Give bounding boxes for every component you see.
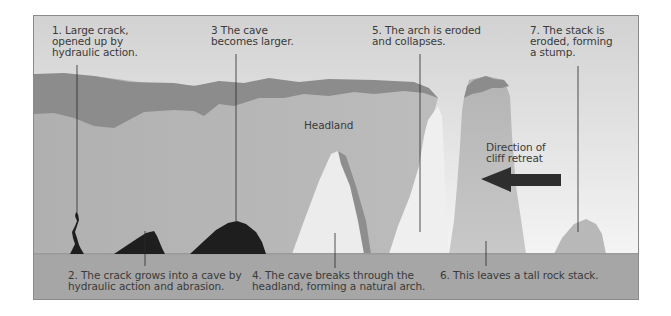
label-direction: Direction of cliff retreat (486, 142, 546, 164)
label-step1: 1. Large crack, opened up by hydraulic a… (52, 25, 138, 58)
label-step4: 4. The cave breaks through the headland,… (252, 270, 425, 292)
label-step2: 2. The crack grows into a cave by hydrau… (68, 270, 242, 292)
label-step5: 5. The arch is eroded and collapses. (372, 25, 481, 47)
diagram-frame: 1. Large crack, opened up by hydraulic a… (33, 15, 639, 300)
label-step7: 7. The stack is eroded, forming a stump. (530, 25, 613, 58)
label-step6: 6. This leaves a tall rock stack. (440, 270, 599, 281)
label-step3: 3 The cave becomes larger. (211, 25, 294, 47)
coastal-erosion-illustration (34, 16, 639, 300)
label-headland: Headland (304, 120, 353, 131)
